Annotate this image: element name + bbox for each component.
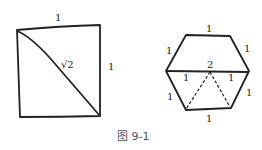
hexagon-dashed-right <box>210 72 230 107</box>
hexagon-diameter-label: 2 <box>207 59 213 70</box>
square-diagram: 1 1 √2 <box>17 12 114 117</box>
figure-canvas: 1 1 √2 1 1 1 2 1 1 1 1 1 图 9-1 <box>0 0 262 150</box>
hexagon-mid-right-label: 1 <box>228 72 234 83</box>
hexagon-top-label: 1 <box>206 23 212 34</box>
hexagon-upper-left-label: 1 <box>166 45 172 56</box>
square-diagonal-label: √2 <box>61 59 74 70</box>
hexagon-dashed-left <box>186 72 210 109</box>
square-right-label: 1 <box>108 61 114 72</box>
square-diagonal <box>17 31 100 116</box>
figure-caption: 图 9-1 <box>117 130 149 143</box>
hexagon-diagram: 1 1 1 2 1 1 1 1 1 <box>166 23 252 124</box>
hexagon-mid-left-label: 1 <box>183 72 189 83</box>
hexagon-lower-right-label: 1 <box>246 87 252 98</box>
hexagon-upper-right-label: 1 <box>244 43 250 54</box>
hexagon-lower-left-label: 1 <box>167 91 173 102</box>
square-top-label: 1 <box>55 12 61 23</box>
hexagon-bottom-label: 1 <box>206 113 212 124</box>
hexagon-diameter <box>166 71 249 72</box>
